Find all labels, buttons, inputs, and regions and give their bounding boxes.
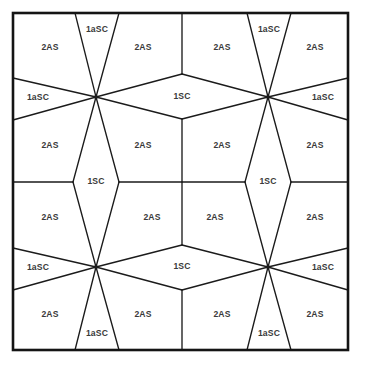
lbl-2as-r2c2: 2AS [134,140,151,150]
lbl-1sc-mid-right: 1SC [259,176,276,186]
lbl-1asc-top-left: 1aSC [86,24,108,34]
vtx-lower-right [266,265,270,269]
lbl-1asc-left-lower: 1aSC [27,262,49,272]
lbl-2as-r4c3: 2AS [213,309,230,319]
lbl-2as-r2c3: 2AS [213,140,230,150]
lbl-2as-r1c2: 2AS [134,42,151,52]
lbl-2as-r3c3: 2AS [206,212,223,222]
lbl-2as-r3c4: 2AS [306,212,323,222]
lbl-1asc-right-lower: 1aSC [312,262,334,272]
lbl-1asc-left-upper: 1aSC [27,92,49,102]
vtx-upper-left [94,95,98,99]
lbl-2as-r3c2: 2AS [143,212,160,222]
lbl-2as-r1c4: 2AS [306,42,323,52]
tiling-canvas: 2AS1aSC2AS2AS1aSC2AS1aSC1SC1aSC2AS2AS2AS… [0,0,365,374]
lbl-1sc-bottom-center: 1SC [173,261,190,271]
lbl-1sc-top-center: 1SC [173,91,190,101]
lbl-1asc-right-upper: 1aSC [312,92,334,102]
lbl-2as-r2c4: 2AS [306,140,323,150]
lbl-2as-r2c1: 2AS [41,140,58,150]
lbl-2as-r1c3: 2AS [213,42,230,52]
lbl-2as-r4c1: 2AS [41,309,58,319]
lbl-1asc-bottom-right: 1aSC [258,328,280,338]
lbl-2as-r4c2: 2AS [134,309,151,319]
lbl-2as-r1c1: 2AS [41,42,58,52]
vtx-lower-left [94,265,98,269]
lbl-1sc-mid-left: 1SC [87,176,104,186]
vtx-upper-right [266,95,270,99]
lbl-1asc-top-right: 1aSC [258,24,280,34]
lbl-2as-r4c4: 2AS [306,309,323,319]
lbl-2as-r3c1: 2AS [41,212,58,222]
tiling-figure: 2AS1aSC2AS2AS1aSC2AS1aSC1SC1aSC2AS2AS2AS… [0,0,365,374]
lbl-1asc-bottom-left: 1aSC [86,328,108,338]
